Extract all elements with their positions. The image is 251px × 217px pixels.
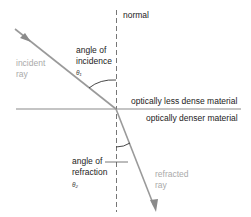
normal-label: normal xyxy=(123,10,149,21)
incident-ray-label-line1: incident xyxy=(16,58,45,69)
incident-ray-label-line2: ray xyxy=(16,69,28,80)
refraction-angle-arc xyxy=(116,143,130,147)
refraction-diagram xyxy=(0,0,251,217)
angle-incidence-label-line1: angle of xyxy=(76,45,106,56)
refracted-ray xyxy=(116,109,154,206)
angle-incidence-label-line2: incidence xyxy=(76,56,112,67)
theta1-symbol: θ₁ xyxy=(76,68,82,79)
denser-material-label: optically denser material xyxy=(146,113,238,124)
refracted-arrowhead-icon xyxy=(150,199,158,212)
less-dense-material-label: optically less dense material xyxy=(131,96,237,107)
refracted-ray-label-line1: refracted xyxy=(155,169,189,180)
angle-refraction-label-line2: refraction xyxy=(72,167,107,178)
angle-refraction-label-line1: angle of xyxy=(72,156,102,167)
incidence-angle-arc xyxy=(89,80,116,88)
theta2-symbol: θ₂ xyxy=(72,180,78,191)
refracted-ray-label-line2: ray xyxy=(155,180,167,191)
